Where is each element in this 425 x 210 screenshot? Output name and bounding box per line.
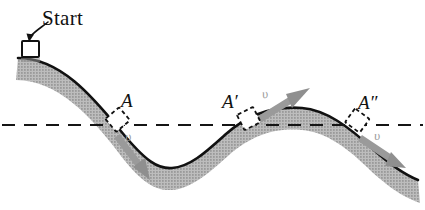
start-label: Start bbox=[42, 8, 83, 29]
point-a-label: A bbox=[121, 91, 133, 110]
point-a-double-prime-label: A″ bbox=[358, 93, 378, 112]
start-block bbox=[21, 41, 40, 62]
physics-figure: Start A A′ A″ υ υ υ bbox=[0, 0, 425, 210]
speed-label-a-double-prime: υ bbox=[373, 129, 380, 143]
point-a-prime-label: A′ bbox=[222, 92, 238, 111]
